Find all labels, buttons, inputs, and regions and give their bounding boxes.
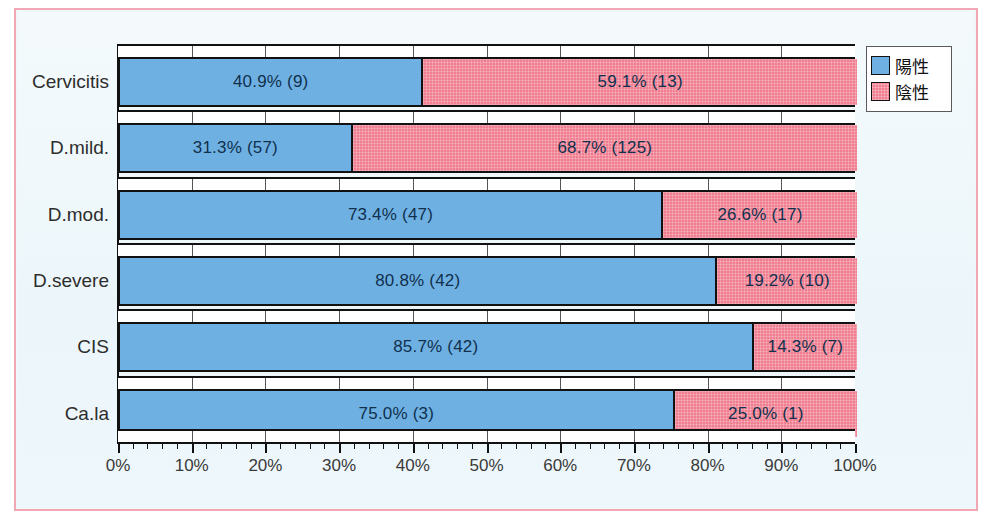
x-axis-minor-tick bbox=[251, 444, 252, 449]
x-axis-minor-tick bbox=[796, 444, 797, 449]
x-axis: 0%10%20%30%40%50%60%70%80%90%100% bbox=[118, 442, 855, 443]
x-axis-tick-label: 20% bbox=[248, 456, 282, 476]
x-axis-minor-tick bbox=[354, 444, 355, 449]
grid-strip bbox=[118, 309, 855, 322]
x-axis-minor-tick bbox=[531, 444, 532, 449]
x-axis-minor-tick bbox=[767, 444, 768, 449]
grid-strip bbox=[118, 376, 855, 389]
stacked-bar[interactable]: 85.7% (42)14.3% (7) bbox=[118, 322, 855, 372]
bar-segment-negative[interactable]: 14.3% (7) bbox=[752, 324, 857, 370]
x-axis-minor-tick bbox=[604, 444, 605, 449]
x-axis-major-tick bbox=[265, 444, 267, 453]
bar-segment-label: 80.8% (42) bbox=[375, 271, 460, 291]
x-axis-tick-label: 50% bbox=[469, 456, 503, 476]
x-axis-minor-tick bbox=[649, 444, 650, 449]
x-axis-minor-tick bbox=[147, 444, 148, 449]
x-axis-minor-tick bbox=[310, 444, 311, 449]
x-axis-major-tick bbox=[708, 444, 710, 453]
x-axis-minor-tick bbox=[826, 444, 827, 449]
x-axis-major-tick bbox=[487, 444, 489, 453]
x-axis-major-tick bbox=[118, 444, 120, 453]
x-axis-minor-tick bbox=[737, 444, 738, 449]
bar-segment-label: 68.7% (125) bbox=[557, 138, 652, 158]
x-axis-major-tick bbox=[781, 444, 783, 453]
bar-segment-label: 19.2% (10) bbox=[745, 271, 830, 291]
x-axis-major-tick bbox=[634, 444, 636, 453]
x-axis-minor-tick bbox=[663, 444, 664, 449]
x-axis-minor-tick bbox=[590, 444, 591, 449]
bar-segment-negative[interactable]: 19.2% (10) bbox=[715, 258, 857, 304]
legend-label-positive: 陽性 bbox=[895, 53, 929, 78]
stacked-bar[interactable]: 80.8% (42)19.2% (10) bbox=[118, 256, 855, 306]
bar-segment-positive[interactable]: 40.9% (9) bbox=[120, 59, 421, 105]
bar-segment-label: 14.3% (7) bbox=[768, 337, 844, 357]
bar-row: 85.7% (42)14.3% (7)CIS bbox=[118, 309, 855, 375]
x-axis-minor-tick bbox=[133, 444, 134, 449]
stacked-bar[interactable]: 31.3% (57)68.7% (125) bbox=[118, 123, 855, 173]
x-axis-major-tick bbox=[855, 444, 857, 453]
bar-segment-positive[interactable]: 85.7% (42) bbox=[120, 324, 752, 370]
category-label-ca-la: Ca.la bbox=[0, 389, 109, 439]
bar-segment-label: 40.9% (9) bbox=[233, 72, 309, 92]
x-axis-minor-tick bbox=[324, 444, 325, 449]
chart-legend: 陽性 陰性 bbox=[866, 46, 952, 112]
grid-strip bbox=[118, 177, 855, 190]
x-axis-minor-tick bbox=[501, 444, 502, 449]
bar-segment-label: 25.0% (1) bbox=[728, 404, 804, 424]
bar-segment-negative[interactable]: 68.7% (125) bbox=[351, 125, 857, 171]
x-axis-tick-label: 90% bbox=[764, 456, 798, 476]
plot-area: 40.9% (9)59.1% (13)Cervicitis31.3% (57)6… bbox=[118, 44, 855, 442]
x-axis-minor-tick bbox=[162, 444, 163, 449]
x-axis-minor-tick bbox=[177, 444, 178, 449]
x-axis-minor-tick bbox=[369, 444, 370, 449]
x-axis-major-tick bbox=[560, 444, 562, 453]
category-label-cis: CIS bbox=[0, 322, 109, 372]
x-axis-minor-tick bbox=[428, 444, 429, 449]
bar-row: 40.9% (9)59.1% (13)Cervicitis bbox=[118, 44, 855, 110]
category-label-d-mod: D.mod. bbox=[0, 190, 109, 240]
grid-strip bbox=[118, 429, 855, 442]
bar-row: 73.4% (47)26.6% (17)D.mod. bbox=[118, 177, 855, 243]
x-axis-minor-tick bbox=[442, 444, 443, 449]
bar-segment-label: 59.1% (13) bbox=[598, 72, 683, 92]
stacked-bar[interactable]: 73.4% (47)26.6% (17) bbox=[118, 190, 855, 240]
x-axis-tick-label: 40% bbox=[396, 456, 430, 476]
bar-segment-label: 26.6% (17) bbox=[717, 205, 802, 225]
category-label-d-mild: D.mild. bbox=[0, 123, 109, 173]
x-axis-minor-tick bbox=[516, 444, 517, 449]
x-axis-minor-tick bbox=[693, 444, 694, 449]
category-label-d-severe: D.severe bbox=[0, 256, 109, 306]
x-axis-tick-label: 0% bbox=[106, 456, 131, 476]
bar-segment-label: 31.3% (57) bbox=[193, 138, 278, 158]
x-axis-minor-tick bbox=[752, 444, 753, 449]
bar-segment-positive[interactable]: 31.3% (57) bbox=[120, 125, 351, 171]
x-axis-major-tick bbox=[192, 444, 194, 453]
bar-segment-positive[interactable]: 73.4% (47) bbox=[120, 192, 661, 238]
grid-strip bbox=[118, 44, 855, 57]
x-axis-minor-tick bbox=[619, 444, 620, 449]
legend-item-positive: 陽性 bbox=[871, 52, 947, 78]
stacked-bar[interactable]: 40.9% (9)59.1% (13) bbox=[118, 57, 855, 107]
x-axis-tick-label: 80% bbox=[691, 456, 725, 476]
x-axis-minor-tick bbox=[545, 444, 546, 449]
x-axis-minor-tick bbox=[840, 444, 841, 449]
legend-label-negative: 陰性 bbox=[895, 79, 929, 104]
x-axis-minor-tick bbox=[383, 444, 384, 449]
legend-item-negative: 陰性 bbox=[871, 78, 947, 104]
bar-segment-label: 85.7% (42) bbox=[393, 337, 478, 357]
bar-row: 80.8% (42)19.2% (10)D.severe bbox=[118, 243, 855, 309]
bar-segment-label: 75.0% (3) bbox=[359, 404, 435, 424]
x-axis-major-tick bbox=[413, 444, 415, 453]
x-axis-minor-tick bbox=[236, 444, 237, 449]
bar-segment-positive[interactable]: 80.8% (42) bbox=[120, 258, 715, 304]
negative-swatch-icon bbox=[871, 82, 890, 101]
x-axis-tick-label: 60% bbox=[543, 456, 577, 476]
bar-row: 31.3% (57)68.7% (125)D.mild. bbox=[118, 110, 855, 176]
bar-segment-negative[interactable]: 26.6% (17) bbox=[661, 192, 857, 238]
grid-strip bbox=[118, 110, 855, 123]
bar-segment-negative[interactable]: 59.1% (13) bbox=[421, 59, 857, 105]
x-axis-minor-tick bbox=[398, 444, 399, 449]
x-axis-tick-label: 30% bbox=[322, 456, 356, 476]
x-axis-minor-tick bbox=[221, 444, 222, 449]
x-axis-minor-tick bbox=[295, 444, 296, 449]
